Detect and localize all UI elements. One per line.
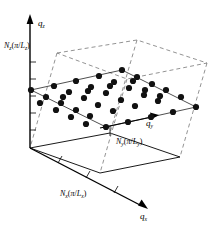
lattice-point: [107, 83, 113, 89]
lattice-point: [43, 94, 49, 100]
lattice-point: [73, 107, 79, 113]
lattice-point: [157, 93, 163, 99]
qz-axis-label: qz: [38, 18, 46, 29]
lattice-point: [87, 113, 93, 119]
lattice-point: [126, 85, 132, 91]
allowed-states-plane: [31, 70, 196, 127]
lattice-point: [110, 108, 116, 114]
lattice-point: [119, 67, 125, 73]
lattice-point: [178, 94, 184, 100]
qx-tick: [86, 171, 90, 178]
wireframe-box: [30, 40, 207, 173]
box-bottom-face: [30, 133, 180, 173]
lattice-plane-outline: [31, 70, 196, 127]
lattice-point: [37, 100, 43, 106]
qx-axis-label: qx: [140, 211, 148, 222]
lattice-point: [163, 87, 169, 93]
lattice-point-group: [28, 67, 199, 130]
qx-axis-arrowhead: [138, 200, 148, 209]
lattice-point: [66, 89, 72, 95]
box-edge-back-right: [110, 40, 137, 133]
lattice-point: [118, 97, 124, 103]
axis-group: [27, 14, 159, 209]
reciprocal-space-figure: qz qy qx Nz(π/Lz) Ny(π/Ly) Nx(π/Lx): [0, 0, 219, 229]
lattice-point: [28, 87, 34, 93]
x-boundary-label: Nx(π/Lx): [59, 189, 87, 199]
lattice-point: [95, 102, 101, 108]
lattice-point: [51, 83, 57, 89]
lattice-point: [170, 109, 176, 115]
lattice-point: [53, 107, 59, 113]
lattice-point: [96, 73, 102, 79]
lattice-point: [73, 78, 79, 84]
lattice-point: [193, 104, 199, 110]
lattice-point: [81, 95, 87, 101]
z-boundary-label: Nz(π/Lz): [3, 41, 30, 51]
lattice-point: [85, 88, 91, 94]
box-top-face: [57, 40, 207, 79]
lattice-point: [103, 124, 109, 130]
lattice-point: [149, 81, 155, 87]
lattice-point: [130, 78, 136, 84]
lattice-point: [60, 94, 66, 100]
lattice-point: [132, 103, 138, 109]
lattice-point: [103, 90, 109, 96]
y-boundary-label: Ny(π/Ly): [115, 137, 143, 147]
lattice-point: [68, 114, 74, 120]
lattice-point: [83, 121, 89, 127]
lattice-point: [58, 100, 64, 106]
figure-canvas: qz qy qx Nz(π/Lz) Ny(π/Ly) Nx(π/Lx): [0, 0, 219, 229]
lattice-point: [125, 119, 131, 125]
lattice-point: [142, 87, 148, 93]
qz-axis-arrowhead: [27, 14, 34, 24]
